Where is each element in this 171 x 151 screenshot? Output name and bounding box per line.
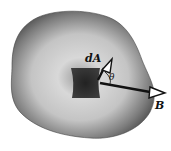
label-dA: dA (85, 53, 101, 64)
label-theta: θ (109, 73, 114, 82)
flux-diagram: dA θ B (0, 0, 171, 151)
label-B: B (155, 100, 164, 111)
field-vector-arrowhead (149, 87, 165, 98)
diagram-graphic (0, 0, 171, 151)
area-element-patch (71, 68, 100, 98)
